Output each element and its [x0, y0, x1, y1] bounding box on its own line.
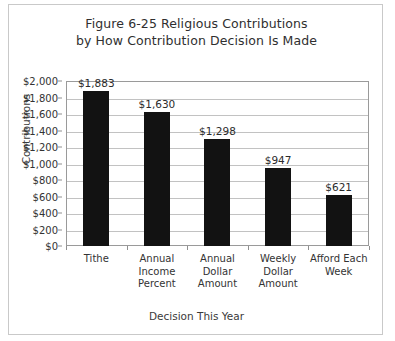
y-axis-tick-label: $400 [33, 208, 58, 219]
x-axis-category-label: Tithe [66, 253, 127, 266]
x-axis-category-label-line: Tithe [66, 253, 127, 266]
y-axis-tick-mark [58, 180, 62, 181]
x-axis-category-label-line: Percent [127, 278, 188, 291]
x-axis-tick-mark [308, 246, 309, 250]
gridline [67, 165, 368, 166]
chart-title-line-2: by How Contribution Decision Is Made [9, 32, 384, 49]
y-axis-tick-label: $600 [33, 191, 58, 202]
y-axis-tick-labels: $0$200$400$600$800$1,000$1,200$1,400$1,6… [9, 81, 62, 246]
x-axis-tick-mark [369, 246, 370, 250]
gridline [67, 214, 368, 215]
y-axis-tick-mark [58, 114, 62, 115]
y-axis-tick-label: $200 [33, 224, 58, 235]
x-axis-category-label-line: Dollar [248, 266, 309, 279]
y-axis-tick-label: $1,800 [23, 92, 58, 103]
chart-title-line-1: Figure 6-25 Religious Contributions [9, 15, 384, 32]
y-axis-tick-mark [58, 196, 62, 197]
x-axis-category-label-line: Afford Each [308, 253, 369, 266]
x-axis-category-label: Afford EachWeek [308, 253, 369, 278]
x-axis-category-label-line: Week [308, 266, 369, 279]
y-axis-tick-mark [58, 229, 62, 230]
y-axis-tick-mark [58, 130, 62, 131]
y-axis-tick-mark [58, 147, 62, 148]
gridline [67, 99, 368, 100]
x-axis-category-label-line: Amount [248, 278, 309, 291]
y-axis-tick-label: $2,000 [23, 76, 58, 87]
y-axis-tick-mark [58, 163, 62, 164]
gridline [67, 181, 368, 182]
chart-title: Figure 6-25 Religious Contributions by H… [9, 15, 384, 49]
y-axis-tick-label: $800 [33, 175, 58, 186]
x-axis-category-label-line: Annual [187, 253, 248, 266]
x-axis-tick-mark [248, 246, 249, 250]
gridline [67, 148, 368, 149]
x-axis-category-label-line: Amount [187, 278, 248, 291]
x-axis-tick-marks [66, 246, 369, 251]
x-axis-tick-mark [66, 246, 67, 250]
y-axis-tick-mark [58, 246, 62, 247]
gridline [67, 198, 368, 199]
gridline [67, 132, 368, 133]
x-axis-title: Decision This Year [9, 310, 384, 322]
y-axis-tick-mark [58, 213, 62, 214]
x-axis-category-label: AnnualIncomePercent [127, 253, 188, 291]
gridline [67, 115, 368, 116]
x-axis-category-label: WeeklyDollarAmount [248, 253, 309, 291]
x-axis-category-label-line: Annual [127, 253, 188, 266]
y-axis-tick-mark [58, 81, 62, 82]
x-axis-category-label-line: Weekly [248, 253, 309, 266]
y-axis-tick-label: $0 [45, 241, 58, 252]
y-axis-tick-label: $1,200 [23, 142, 58, 153]
x-axis-category-label-line: Income [127, 266, 188, 279]
x-axis-category-labels: TitheAnnualIncomePercentAnnualDollarAmou… [66, 253, 369, 303]
x-axis-category-label-line: Dollar [187, 266, 248, 279]
y-axis-tick-label: $1,600 [23, 109, 58, 120]
figure-frame: Figure 6-25 Religious Contributions by H… [8, 4, 383, 335]
y-axis-tick-label: $1,400 [23, 125, 58, 136]
plot-area [66, 81, 369, 246]
y-axis-tick-label: $1,000 [23, 158, 58, 169]
x-axis-tick-mark [127, 246, 128, 250]
x-axis-category-label: AnnualDollarAmount [187, 253, 248, 291]
x-axis-tick-mark [187, 246, 188, 250]
y-axis-tick-mark [58, 97, 62, 98]
gridline [67, 231, 368, 232]
